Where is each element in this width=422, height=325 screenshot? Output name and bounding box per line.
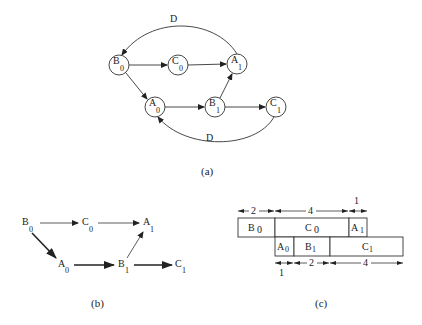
b-edge-b0-a0 [32, 233, 56, 258]
svg-text:C: C [362, 241, 369, 252]
panel-b: B 0 C 0 A 1 A 0 B 1 C 1 (b) [22, 216, 186, 310]
node-a0: A 0 [145, 97, 165, 117]
b-node-b0: B 0 [22, 216, 33, 234]
b-node-b1: B 1 [118, 258, 129, 275]
edge-c1-a0-curve [158, 117, 274, 142]
edge-a1-b0-curve [122, 26, 237, 55]
svg-text:2: 2 [251, 205, 256, 216]
svg-text:1: 1 [369, 245, 373, 254]
c-box-a1: A 1 [349, 218, 367, 237]
node-c1: C 1 [266, 97, 286, 117]
svg-text:0: 0 [314, 224, 319, 235]
svg-text:1: 1 [354, 195, 359, 206]
svg-text:C: C [305, 222, 312, 233]
svg-text:B: B [113, 55, 120, 66]
edge-b1-a1 [220, 74, 232, 98]
svg-text:C: C [270, 97, 277, 108]
svg-text:A: A [351, 222, 359, 233]
edge-b0-a0 [126, 73, 147, 99]
svg-text:0: 0 [156, 106, 160, 115]
b-node-a1: A 1 [143, 216, 154, 234]
svg-text:2: 2 [309, 257, 314, 268]
svg-text:0: 0 [65, 266, 69, 275]
c-box-b0: B 0 [238, 218, 275, 237]
c-box-b1: B 1 [294, 237, 330, 256]
svg-text:0: 0 [120, 64, 124, 73]
svg-text:C: C [82, 216, 89, 227]
node-b1: B 1 [205, 97, 225, 117]
c-box-c0: C 0 [275, 218, 349, 237]
b-edge-b1-a1 [127, 232, 143, 258]
svg-text:B: B [209, 97, 216, 108]
svg-text:1: 1 [360, 226, 364, 235]
caption-c: (c) [315, 297, 328, 310]
edge-c0-a1 [188, 64, 226, 65]
b-node-c0: C 0 [82, 216, 93, 234]
edge-label-d-top: D [170, 13, 177, 24]
svg-text:1: 1 [279, 267, 284, 278]
svg-text:0: 0 [257, 224, 262, 235]
svg-text:1: 1 [238, 63, 242, 72]
svg-text:0: 0 [179, 64, 183, 73]
node-b0: B 0 [109, 55, 129, 75]
panel-c: 2 4 1 B 0 C 0 A 1 A 0 B 1 [238, 195, 403, 310]
caption-b: (b) [91, 297, 104, 310]
svg-text:0: 0 [89, 225, 93, 234]
svg-text:0: 0 [285, 245, 289, 254]
svg-text:A: A [277, 241, 285, 252]
svg-text:C: C [172, 55, 179, 66]
svg-text:4: 4 [308, 205, 313, 216]
c-box-c1: C 1 [330, 237, 403, 256]
svg-text:1: 1 [150, 225, 154, 234]
panel-a: D D B 0 C 0 A 1 A 0 [109, 13, 286, 178]
svg-text:C: C [175, 258, 182, 269]
node-a1: A 1 [227, 54, 247, 74]
svg-text:B: B [22, 216, 29, 227]
c-box-a0: A 0 [275, 237, 294, 256]
svg-text:B: B [118, 258, 125, 269]
svg-text:B: B [248, 222, 255, 233]
svg-text:1: 1 [182, 266, 186, 275]
svg-text:1: 1 [312, 245, 316, 254]
svg-text:1: 1 [125, 266, 129, 275]
svg-text:4: 4 [363, 257, 368, 268]
caption-a: (a) [201, 165, 214, 178]
svg-text:1: 1 [277, 106, 281, 115]
edge-label-d-bottom: D [206, 132, 213, 143]
b-node-c1: C 1 [175, 258, 186, 275]
node-c0: C 0 [168, 55, 188, 75]
svg-text:B: B [305, 241, 312, 252]
figure-canvas: D D B 0 C 0 A 1 A 0 [0, 0, 422, 325]
b-node-a0: A 0 [58, 258, 69, 275]
svg-text:1: 1 [216, 106, 220, 115]
